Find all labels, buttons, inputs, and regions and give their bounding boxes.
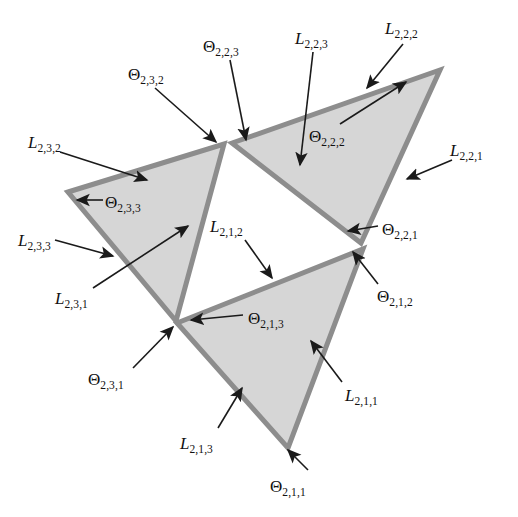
label-L_2_2_3: L2,2,3 [295,30,328,50]
label-Th_2_2_1: Θ2,2,1 [382,221,418,241]
label-subscript: 2,2,1 [459,150,483,162]
triangle-right [232,70,440,243]
label-L_2_1_2: L2,1,2 [210,218,243,238]
label-subscript: 2,3,3 [117,202,141,214]
label-subscript: 2,2,1 [394,229,418,241]
arrow_Th_2_2_3 [230,60,246,140]
label-L_2_2_2: L2,2,2 [385,20,418,40]
arrow_Th_2_3_2 [155,88,216,142]
arrow_L_2_2_1 [407,160,452,179]
label-Th_2_1_2: Θ2,1,2 [377,288,413,308]
label-subscript: 2,1,3 [189,443,213,455]
label-base: Θ [309,127,321,146]
label-subscript: 2,2,2 [321,136,345,148]
label-subscript: 2,3,1 [100,379,124,391]
label-base: Θ [270,477,282,496]
label-subscript: 2,1,2 [389,296,413,308]
triangle-group [68,70,440,448]
label-L_2_3_1: L2,3,1 [55,290,88,310]
label-L_2_3_3: L2,3,3 [18,232,51,252]
label-base: Θ [105,193,117,212]
label-Th_2_3_1: Θ2,3,1 [88,371,124,391]
diagram-svg [0,0,518,517]
arrow_L_2_3_3 [55,240,113,256]
label-base: Θ [382,220,394,239]
label-L_2_3_2: L2,3,2 [28,134,61,154]
arrow_Th_2_3_1 [133,327,173,368]
arrow_L_2_1_2 [245,240,272,278]
label-subscript: 2,2,2 [394,28,418,40]
label-base: Θ [88,370,100,389]
arrow_Th_2_1_1 [288,450,308,470]
label-subscript: 2,1,1 [282,486,306,498]
arrow_L_2_3_2 [60,152,147,180]
label-subscript: 2,1,3 [260,318,284,330]
label-subscript: 2,3,2 [140,74,164,86]
figure-canvas: L2,3,2Θ2,3,2Θ2,2,3L2,2,3L2,2,2L2,2,1Θ2,2… [0,0,518,517]
label-base: Θ [203,37,215,56]
label-Th_2_3_3: Θ2,3,3 [105,194,141,214]
triangle-left [68,144,224,321]
label-subscript: 2,2,3 [304,38,328,50]
arrow_L_2_1_3 [218,388,242,428]
label-subscript: 2,3,2 [37,142,61,154]
label-subscript: 2,3,1 [64,298,88,310]
label-Th_2_3_2: Θ2,3,2 [128,66,164,86]
label-subscript: 2,3,3 [27,240,51,252]
label-L_2_1_1: L2,1,1 [345,387,378,407]
label-Th_2_2_3: Θ2,2,3 [203,38,239,58]
label-Th_2_1_1: Θ2,1,1 [270,478,306,498]
triangle-bottom [177,249,363,448]
label-base: Θ [248,309,260,328]
label-Th_2_2_2: Θ2,2,2 [309,128,345,148]
label-base: Θ [128,65,140,84]
label-base: Θ [377,287,389,306]
label-L_2_1_3: L2,1,3 [180,435,213,455]
label-subscript: 2,2,3 [215,46,239,58]
label-subscript: 2,1,2 [219,226,243,238]
label-Th_2_1_3: Θ2,1,3 [248,310,284,330]
label-subscript: 2,1,1 [354,395,378,407]
arrow_L_2_2_2 [367,44,403,88]
label-L_2_2_1: L2,2,1 [450,142,483,162]
